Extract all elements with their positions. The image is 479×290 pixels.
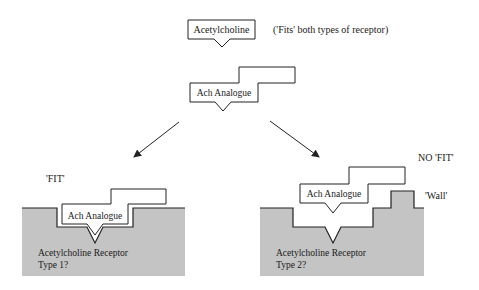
acetylcholine-label: Acetylcholine (193, 24, 250, 35)
arrow-to-type1 (134, 122, 179, 157)
receptor-type1-label-line2: Type 1? (38, 260, 68, 270)
receptor-type2-label-line2: Type 2? (276, 260, 306, 270)
fits-both-note: ('Fits' both types of receptor) (273, 24, 388, 36)
fit-label: 'FIT' (46, 173, 65, 184)
receptor-fit-diagram: Acetylcholine ('Fits' both types of rece… (0, 0, 479, 290)
ach-analogue-label-left: Ach Analogue (68, 211, 123, 221)
receptor-type1-label-line1: Acetylcholine Receptor (38, 248, 129, 258)
ach-analogue-label-top: Ach Analogue (197, 88, 252, 98)
wall-label: 'Wall' (425, 190, 447, 201)
receptor-type2: Acetylcholine Receptor Type 2? (260, 191, 424, 276)
ach-analogue-label-right: Ach Analogue (307, 189, 362, 199)
acetylcholine-shape: Acetylcholine (188, 20, 255, 47)
ach-analogue-blocked: Ach Analogue (300, 167, 405, 213)
receptor-type2-label-line1: Acetylcholine Receptor (276, 248, 367, 258)
arrow-to-type2 (270, 121, 319, 157)
no-fit-label: NO 'FIT' (418, 152, 454, 163)
ach-analogue-shape-top: Ach Analogue (190, 67, 295, 111)
